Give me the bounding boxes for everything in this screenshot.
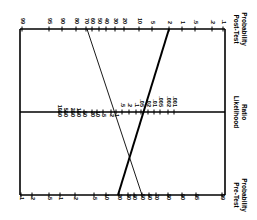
tick-label: 10 [104,194,110,200]
tick-label: 2 [73,197,79,200]
tick-label: 50 [140,194,146,200]
tick-label: 60 [147,194,153,200]
likelihood-ratio-title: Ratio [241,104,248,120]
tick-label: 80 [166,194,172,200]
fagan-nomogram: 9995908070605040302010521.5.2.1 10005002… [0,0,257,220]
tick-label: 2 [167,21,173,24]
tick-label: .2 [210,19,216,24]
tick-label: 95 [47,18,53,24]
tick-label: 90 [180,194,186,200]
tick-label: 100 [76,108,82,117]
tick-label: .05 [139,99,145,107]
likelihood-ratio-title: Likelihood [233,96,240,129]
tick-label: 5 [92,197,98,200]
tick-label: 1000 [57,105,63,117]
tick-label: 30 [113,18,119,24]
tick-label: 10 [95,111,101,117]
tick-label: 50 [82,111,88,117]
tick-label: 1 [180,21,186,24]
tick-label: 99 [220,194,226,200]
tick-label: 20 [122,18,128,24]
pre-test-title: Probability [240,178,248,212]
tick-label: .5 [120,102,126,107]
tick-label: .002 [166,96,172,107]
post-test-title: Post-Test [233,14,240,44]
tick-label: 95 [194,194,200,200]
tick-label: .5 [47,195,53,200]
tick-label: 5 [101,114,107,117]
pre-test-probability-axis: .1.2.51251020304050607080909599 [19,193,226,201]
tick-label: 30 [126,194,132,200]
tick-label: .1 [19,195,25,200]
tick-label: 70 [154,194,160,200]
tick-label: .2 [127,102,133,107]
tick-label: 90 [60,18,66,24]
tick-label: 40 [132,194,138,200]
post-test-probability-axis: 9995908070605040302010521.5.2.1 [20,18,227,32]
axis-titles: Post-TestProbabilityLikelihoodRatioPre-T… [233,12,248,212]
post-test-title: Probability [240,12,248,46]
tick-label: 40 [104,18,110,24]
tick-label: .2 [30,195,36,200]
tick-label: 99 [20,18,26,24]
tick-label: .01 [152,99,158,107]
likelihood-ratio-axis: 1000500200100502010521.5.2.1.05.02.01.00… [20,96,225,117]
tick-label: .5 [193,19,199,24]
tick-label: 1 [114,114,120,117]
tick-label: 70 [84,18,90,24]
tick-label: 60 [90,18,96,24]
pre-test-title: Pre-Test [233,182,240,208]
tick-label: .001 [172,96,178,107]
tick-label: 5 [150,21,156,24]
tick-label: .005 [158,96,164,107]
tick-label: 50 [97,18,103,24]
tick-label: .1 [221,19,227,24]
tick-label: 80 [74,18,80,24]
tick-label: 1 [58,197,64,200]
tick-label: 200 [70,108,76,117]
tick-label: 10 [137,18,143,24]
tick-label: 500 [63,108,69,117]
